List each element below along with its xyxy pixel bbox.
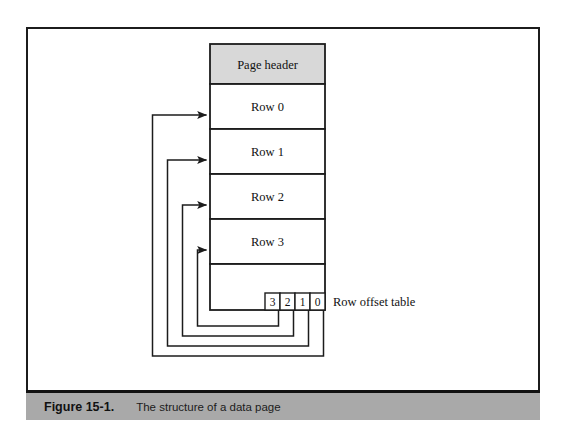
row-label-2: Row 2 [251, 190, 284, 204]
data-page-diagram: Page header Row 0 Row 1 Row 2 Row 3 3 [28, 29, 538, 410]
offset-cell-value-3: 3 [270, 296, 276, 308]
offset-cell-value-1: 1 [300, 296, 306, 308]
figure-number: Figure 15-1. [44, 400, 114, 414]
data-page-box: Page header Row 0 Row 1 Row 2 Row 3 3 [210, 44, 325, 310]
offset-cell-value-2: 2 [285, 296, 291, 308]
figure-caption-bar: Figure 15-1. The structure of a data pag… [26, 390, 540, 420]
figure-frame: Page header Row 0 Row 1 Row 2 Row 3 3 [26, 27, 540, 412]
row-label-1: Row 1 [251, 145, 284, 159]
row-label-3: Row 3 [251, 235, 284, 249]
page-header-label: Page header [237, 58, 299, 72]
figure-caption-text: The structure of a data page [136, 401, 280, 413]
figure-container: Page header Row 0 Row 1 Row 2 Row 3 3 [0, 0, 566, 439]
row-offset-table-label: Row offset table [333, 295, 416, 309]
row-label-0: Row 0 [251, 100, 284, 114]
offset-cell-value-0: 0 [315, 296, 321, 308]
